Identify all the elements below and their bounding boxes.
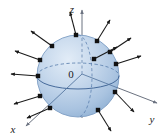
vector-base-marker xyxy=(36,74,40,78)
sphere-group xyxy=(37,35,119,117)
vector-base-marker xyxy=(48,106,52,110)
vector-base-marker xyxy=(113,90,117,94)
z-axis-label: z xyxy=(69,3,75,15)
sphere-normal-vector-figure: z y x 0 xyxy=(0,0,166,138)
vector-base-marker xyxy=(50,44,54,48)
vector-base-marker xyxy=(95,39,99,43)
vector-base-marker xyxy=(114,62,118,66)
vector-base-marker xyxy=(38,94,42,98)
vector-base-marker xyxy=(38,58,42,62)
vector-base-marker xyxy=(74,33,78,37)
origin-label: 0 xyxy=(68,68,74,80)
x-axis-label: x xyxy=(10,123,16,135)
vector-base-marker xyxy=(96,108,100,112)
vector-base-marker xyxy=(92,57,96,61)
figure-canvas: z y x 0 xyxy=(0,0,166,138)
y-axis-label: y xyxy=(149,113,155,125)
